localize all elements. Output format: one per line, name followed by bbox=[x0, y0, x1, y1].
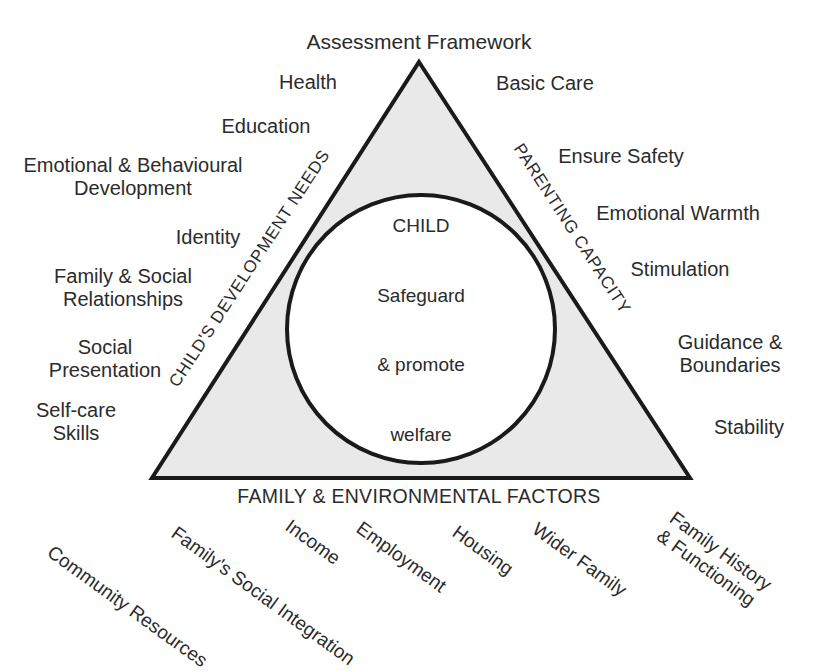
core-line-welfare: welfare bbox=[377, 423, 465, 446]
label-line: Self-care bbox=[36, 399, 116, 422]
need-item-emotional-behavioural-development: Emotional & BehaviouralDevelopment bbox=[23, 154, 242, 200]
core-text-block: CHILD Safeguard & promote welfare bbox=[377, 168, 465, 492]
need-item-health: Health bbox=[279, 71, 337, 94]
capacity-item-stimulation: Stimulation bbox=[631, 258, 730, 281]
need-item-identity: Identity bbox=[176, 226, 240, 249]
need-item-education: Education bbox=[222, 115, 311, 138]
diagram-title: Assessment Framework bbox=[306, 30, 531, 54]
label-line: Social bbox=[49, 336, 161, 359]
label-line: Family & Social bbox=[54, 265, 192, 288]
label-line: Development bbox=[23, 177, 242, 200]
capacity-item-ensure-safety: Ensure Safety bbox=[558, 145, 684, 168]
capacity-item-guidance-boundaries: Guidance &Boundaries bbox=[678, 331, 783, 377]
label-line: Skills bbox=[36, 422, 116, 445]
label-line: Guidance & bbox=[678, 331, 783, 354]
need-item-social-presentation: SocialPresentation bbox=[49, 336, 161, 382]
core-line-promote: & promote bbox=[377, 353, 465, 376]
capacity-item-emotional-warmth: Emotional Warmth bbox=[596, 202, 760, 225]
capacity-item-stability: Stability bbox=[714, 416, 784, 439]
label-line: Relationships bbox=[54, 288, 192, 311]
need-item-self-care-skills: Self-careSkills bbox=[36, 399, 116, 445]
label-line: Emotional & Behavioural bbox=[23, 154, 242, 177]
need-item-family-social-relationships: Family & SocialRelationships bbox=[54, 265, 192, 311]
label-line: Boundaries bbox=[678, 354, 783, 377]
core-line-child: CHILD bbox=[377, 214, 465, 237]
label-line: Presentation bbox=[49, 359, 161, 382]
capacity-item-basic-care: Basic Care bbox=[496, 72, 594, 95]
axis-label-family-environmental-factors: FAMILY & ENVIRONMENTAL FACTORS bbox=[237, 485, 600, 508]
core-line-safeguard: Safeguard bbox=[377, 284, 465, 307]
